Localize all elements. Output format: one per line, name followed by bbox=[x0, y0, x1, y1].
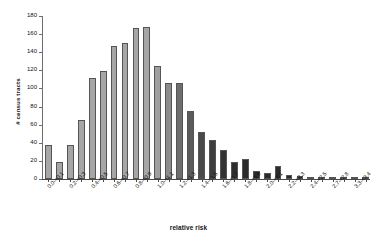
y-tick-label: 60 bbox=[30, 121, 37, 127]
y-tick-mark bbox=[39, 16, 42, 17]
bar bbox=[154, 66, 161, 179]
y-tick-mark bbox=[39, 34, 42, 35]
x-tick-mark bbox=[366, 179, 367, 182]
x-tick-mark bbox=[103, 179, 104, 182]
bar bbox=[111, 46, 118, 179]
bar bbox=[242, 159, 249, 179]
plot-area: 020406080100120140160180 0.0-<0.10.2-<0.… bbox=[42, 16, 370, 179]
y-tick-label: 120 bbox=[27, 66, 37, 72]
x-tick-mark bbox=[300, 179, 301, 182]
x-tick-mark bbox=[125, 179, 126, 182]
bar bbox=[143, 27, 150, 179]
y-tick-mark bbox=[39, 107, 42, 108]
x-axis-title: relative risk bbox=[0, 224, 377, 231]
x-tick-mark bbox=[169, 179, 170, 182]
bar bbox=[187, 111, 194, 179]
x-tick-mark bbox=[212, 179, 213, 182]
y-tick-label: 0 bbox=[34, 175, 37, 181]
bar bbox=[133, 28, 140, 179]
bar bbox=[100, 71, 107, 179]
histogram-figure: # census tracts 020406080100120140160180… bbox=[0, 0, 377, 242]
bar bbox=[45, 145, 52, 179]
x-tick-mark bbox=[256, 179, 257, 182]
x-tick-mark bbox=[322, 179, 323, 182]
x-tick-mark bbox=[344, 179, 345, 182]
y-tick-mark bbox=[39, 161, 42, 162]
y-tick-label: 80 bbox=[30, 103, 37, 109]
x-tick-mark bbox=[234, 179, 235, 182]
y-tick-label: 140 bbox=[27, 48, 37, 54]
y-tick-label: 20 bbox=[30, 157, 37, 163]
y-axis-title: # census tracts bbox=[14, 47, 21, 157]
y-tick-label: 100 bbox=[27, 84, 37, 90]
y-tick-mark bbox=[39, 179, 42, 180]
x-tick-mark bbox=[81, 179, 82, 182]
y-tick-label: 160 bbox=[27, 30, 37, 36]
bar bbox=[220, 150, 227, 179]
bar-series bbox=[43, 16, 370, 179]
bar bbox=[198, 132, 205, 179]
x-tick-mark bbox=[59, 179, 60, 182]
y-tick-mark bbox=[39, 125, 42, 126]
y-tick-mark bbox=[39, 70, 42, 71]
bar bbox=[67, 145, 74, 179]
bar bbox=[89, 78, 96, 179]
bar bbox=[176, 83, 183, 179]
y-tick-label: 180 bbox=[27, 12, 37, 18]
x-tick-mark bbox=[278, 179, 279, 182]
bar bbox=[165, 83, 172, 179]
x-tick-mark bbox=[191, 179, 192, 182]
y-tick-mark bbox=[39, 143, 42, 144]
x-tick-mark bbox=[147, 179, 148, 182]
y-tick-mark bbox=[39, 88, 42, 89]
y-tick-mark bbox=[39, 52, 42, 53]
y-tick-label: 40 bbox=[30, 139, 37, 145]
bar bbox=[122, 43, 129, 179]
